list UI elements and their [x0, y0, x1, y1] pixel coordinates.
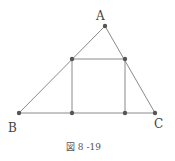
point-square-tl — [70, 57, 74, 61]
point-c — [153, 111, 157, 115]
side-ab — [19, 26, 105, 113]
label-a: A — [95, 9, 105, 23]
point-a — [103, 24, 107, 28]
point-square-tr — [123, 57, 127, 61]
label-c: C — [154, 117, 163, 131]
figure-svg: A B C 図 8 -19 — [0, 0, 175, 161]
side-ac — [105, 26, 155, 113]
point-b — [17, 111, 21, 115]
point-square-br — [123, 111, 127, 115]
geometry-figure: A B C 図 8 -19 — [0, 0, 175, 161]
point-square-bl — [70, 111, 74, 115]
label-b: B — [8, 121, 17, 135]
figure-caption: 図 8 -19 — [66, 142, 101, 152]
